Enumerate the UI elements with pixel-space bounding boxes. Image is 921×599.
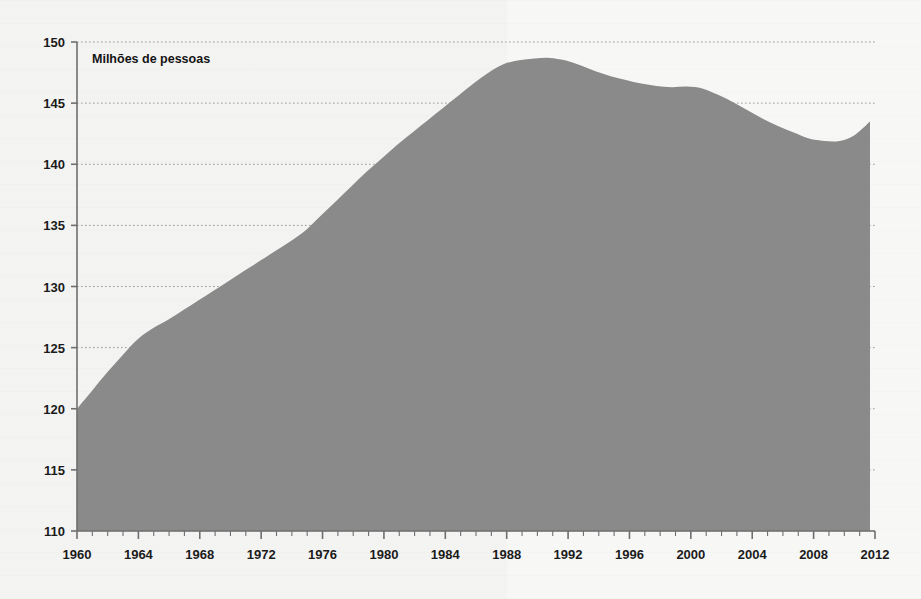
y-tick-label: 110 [44, 524, 65, 539]
area-chart: 110115120125130135140145150 196019641968… [0, 0, 921, 599]
x-tick-label: 1980 [369, 547, 398, 562]
x-tick-label: 2008 [799, 547, 828, 562]
x-tick-label: 2000 [676, 547, 705, 562]
x-tick-label: 1964 [124, 547, 154, 562]
y-tick-label: 140 [43, 157, 65, 172]
y-axis-tick-labels: 110115120125130135140145150 [43, 35, 65, 539]
x-tick-label: 1988 [492, 547, 521, 562]
y-axis-ticks [71, 42, 77, 531]
x-axis-tick-labels: 1960196419681972197619801984198819921996… [63, 547, 890, 562]
x-tick-label: 1996 [615, 547, 644, 562]
x-tick-label: 2012 [861, 547, 890, 562]
y-tick-label: 130 [43, 280, 65, 295]
y-tick-label: 115 [44, 463, 65, 478]
x-tick-label: 2004 [738, 547, 768, 562]
plot-title: Milhões de pessoas [92, 52, 210, 66]
x-tick-label: 1976 [308, 547, 337, 562]
y-tick-label: 150 [43, 35, 65, 50]
y-tick-label: 120 [43, 402, 65, 417]
series-area-population [77, 58, 870, 531]
x-tick-label: 1984 [431, 547, 461, 562]
area-fill-path [77, 58, 870, 531]
y-tick-label: 125 [43, 341, 65, 356]
x-tick-label: 1960 [63, 547, 92, 562]
x-axis-ticks [77, 531, 875, 539]
x-tick-label: 1968 [185, 547, 214, 562]
x-tick-label: 1972 [247, 547, 276, 562]
x-tick-label: 1992 [554, 547, 583, 562]
chart-figure: 110115120125130135140145150 196019641968… [0, 0, 921, 599]
y-tick-label: 135 [43, 218, 65, 233]
y-tick-label: 145 [43, 96, 65, 111]
